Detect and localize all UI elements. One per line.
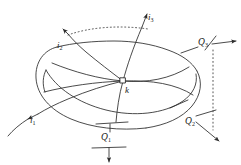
label-current-i2-subscript: 2 [60,45,63,51]
label-heatflux-q2-subscript: 2 [192,121,195,127]
label-node-k: k [125,86,129,95]
label-current-i1: i1 [30,116,36,125]
current-tail-i1 [8,119,28,136]
label-current-i1-subscript: 1 [33,120,36,126]
label-node-k-symbol: k [125,85,129,95]
heatflux-q2-arrow [196,122,219,141]
figure-canvas: i3 i2 i1 k ·Q3 ·Q2 ·Q1 [0,0,241,165]
label-heatflux-q1: ·Q1 [101,133,111,143]
label-heatflux-q2: ·Q2 [185,117,195,127]
body-inner-front-rim [46,70,196,114]
label-heatflux-q1-subscript: 1 [108,137,111,143]
heatflux-q3-arrow [212,41,236,44]
label-heatflux-q3: ·Q3 [198,38,208,48]
top-dotted-arc-guide [68,27,148,35]
label-current-i3-subscript: 3 [151,17,154,23]
body-rim-left-closure [43,70,46,92]
current-arrow-i3 [142,14,147,27]
internal-curve-lower [44,81,193,95]
current-arrow-i2 [63,29,68,34]
label-current-i2: i2 [57,41,63,50]
heatflux-q3-tick-inner [181,47,198,53]
diagram-svg [0,0,241,165]
label-heatflux-q2-dot: · [188,114,191,122]
label-heatflux-q3-dot: · [201,35,204,43]
current-path-i1 [38,81,123,114]
heatflux-q2-tick-inner [170,100,188,108]
heatflux-q1-tick-inner [96,122,128,124]
label-heatflux-q1-dot: · [104,130,107,138]
label-heatflux-q3-subscript: 3 [205,42,208,48]
node-k-square [120,78,125,83]
label-current-i3: i3 [148,13,154,22]
